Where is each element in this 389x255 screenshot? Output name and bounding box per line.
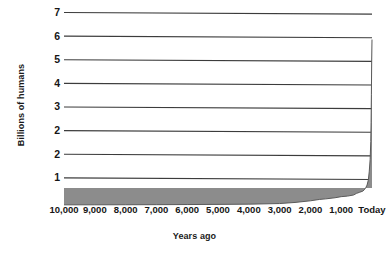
gridline (64, 13, 372, 15)
x-axis-tick-label: 6,000 (175, 203, 199, 216)
y-axis-tick-label: 1 (34, 172, 60, 183)
gridline (64, 36, 372, 38)
series-layer (64, 40, 372, 205)
gridline (64, 131, 372, 133)
plot-svg (64, 12, 372, 188)
y-axis-tick-label: 2 (34, 148, 60, 159)
x-axis-tick-label: 9,000 (83, 203, 107, 216)
y-axis-tick-label: 5 (34, 54, 60, 65)
gridline (64, 83, 372, 85)
plot-area (64, 12, 372, 188)
y-axis-tick-label: 2 (34, 125, 60, 136)
x-axis-tick-label: 2,000 (299, 203, 323, 216)
x-axis-tick-label: 5,000 (206, 203, 230, 216)
y-axis-tick-label: 6 (34, 30, 60, 41)
y-axis-tick-label: 7 (34, 7, 60, 18)
gridline (64, 178, 372, 180)
x-axis-title: Years ago (0, 231, 389, 241)
y-axis-title: Billions of humans (13, 42, 29, 168)
x-axis-tick-label: 1,000 (329, 203, 353, 216)
y-axis-title-text: Billions of humans (16, 64, 26, 146)
gridline (64, 154, 372, 156)
x-axis-tick-label: 4,000 (237, 203, 261, 216)
gridlines (64, 13, 372, 180)
population-area-chart: Billions of humans 76543221 10,0009,0008… (0, 0, 389, 255)
x-axis-tick-labels: 10,0009,0008,0007,0006,0005,0004,0003,00… (0, 203, 389, 219)
area-fill (64, 40, 372, 205)
area-outline (64, 40, 372, 205)
y-axis-tick-label: 4 (34, 78, 60, 89)
y-axis-tick-label: 3 (34, 101, 60, 112)
x-axis-tick-label: 7,000 (145, 203, 169, 216)
gridline (64, 60, 372, 62)
x-axis-tick-label: Today (358, 203, 385, 216)
x-axis-tick-label: 3,000 (268, 203, 292, 216)
x-axis-tick-label: 8,000 (114, 203, 138, 216)
x-axis-tick-label: 10,000 (49, 203, 78, 216)
gridline (64, 107, 372, 109)
